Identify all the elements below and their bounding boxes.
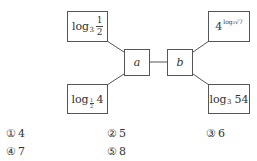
box-4-pow-log: 4log₂√7	[208, 11, 250, 42]
denominator: 2	[97, 28, 103, 37]
choice-value: 4	[18, 127, 25, 140]
choice-4[interactable]: ④ 7	[6, 145, 25, 158]
node-a: a	[124, 49, 150, 76]
log-base: 3	[90, 26, 94, 34]
denominator: 2	[90, 104, 93, 109]
choice-value: 5	[119, 127, 126, 140]
box-log3-half: log3 1 2	[67, 11, 108, 42]
numerator: 1	[97, 16, 103, 25]
fraction: 1 2	[96, 16, 103, 37]
node-b: b	[167, 49, 193, 76]
choice-value: 6	[218, 127, 225, 140]
log-argument: 4	[97, 93, 104, 106]
log-label: log	[71, 93, 88, 106]
choice-1[interactable]: ① 4	[6, 127, 25, 140]
log-base-fraction: 1 2	[90, 98, 94, 109]
choice-value: 7	[18, 145, 25, 158]
choice-marker: ②	[107, 127, 117, 140]
box-log3-54: log3 54	[208, 84, 250, 114]
node-b-label: b	[176, 56, 183, 69]
choice-3[interactable]: ③ 6	[206, 127, 225, 140]
power-base: 4	[215, 20, 222, 33]
exponent: log₂√7	[223, 18, 242, 25]
choice-marker: ⑤	[107, 145, 117, 158]
choice-value: 8	[119, 145, 126, 158]
log-label: log	[72, 20, 89, 33]
choice-marker: ③	[206, 127, 216, 140]
choice-marker: ④	[6, 145, 16, 158]
choice-2[interactable]: ② 5	[107, 127, 126, 140]
log-label: log	[209, 93, 226, 106]
node-a-label: a	[134, 56, 141, 69]
choice-5[interactable]: ⑤ 8	[107, 145, 126, 158]
box-log-half-4: log 1 2 4	[67, 84, 108, 114]
choice-marker: ①	[6, 127, 16, 140]
log-base: 3	[227, 98, 231, 106]
log-argument: 54	[235, 93, 249, 106]
